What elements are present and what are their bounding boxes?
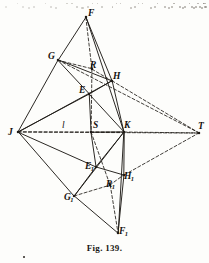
solid-edge-e1-h1 [96, 167, 124, 175]
vertex-label-subscript: 1 [91, 165, 94, 172]
vertex-marker-e1 [95, 166, 98, 169]
vertex-marker-t [198, 132, 201, 135]
geometry-diagram [0, 0, 209, 263]
vertex-label-text: G [48, 51, 55, 61]
vertex-label-e: E [79, 86, 85, 96]
vertex-label-text: J [8, 127, 13, 137]
vertex-label-text: S [93, 120, 98, 130]
vertex-label-subscript: 1 [131, 175, 134, 182]
vertex-marker-k [123, 131, 126, 134]
figure-caption: Fig. 139. [0, 243, 209, 253]
figure-container: FGRHEJSKTE1H1R1G1F1 l Fig. 139. [0, 0, 209, 263]
vertex-label-h1: H1 [124, 172, 134, 182]
vertex-label-s: S [93, 121, 98, 131]
vertex-label-text: H [113, 71, 120, 81]
vertex-label-h: H [113, 72, 120, 82]
vertex-label-g1: G1 [64, 193, 74, 203]
vertex-label-text: T [198, 121, 204, 131]
vertex-label-e1: E1 [85, 162, 94, 172]
dashed-edge-g1-r1 [74, 185, 110, 196]
vertex-label-r: R [90, 61, 96, 71]
vertex-label-subscript: 1 [112, 183, 115, 190]
vertex-label-f1: F1 [119, 227, 128, 237]
dashed-edge-h1-t [124, 133, 199, 175]
vertex-marker-g [57, 59, 60, 62]
vertex-label-t: T [198, 122, 204, 132]
vertex-marker-f [85, 16, 88, 19]
vertex-label-g: G [48, 52, 55, 62]
vertex-label-subscript: 1 [70, 196, 73, 203]
vertex-label-text: E [79, 85, 85, 95]
solid-edge-h-k [112, 81, 124, 132]
line-label-l: l [62, 121, 64, 131]
vertex-label-r1: R1 [106, 180, 115, 190]
vertex-marker-layer [17, 16, 201, 235]
dashed-edge-layer [18, 17, 199, 233]
vertex-label-text: R [90, 60, 96, 70]
vertex-marker-s [90, 131, 93, 134]
vertex-label-k: K [124, 121, 130, 131]
vertex-marker-e [88, 93, 91, 96]
vertex-label-text: K [124, 120, 130, 130]
vertex-label-text: F [88, 8, 94, 18]
solid-edge-g1-f1 [74, 196, 118, 233]
solid-edge-e-s [89, 94, 91, 132]
vertex-label-f: F [88, 9, 94, 19]
page-speck [23, 256, 25, 258]
solid-edge-f-g [58, 17, 86, 60]
dashed-edge-r1-f1 [110, 185, 118, 233]
vertex-label-j: J [8, 128, 13, 138]
solid-edge-j-g1 [18, 132, 74, 196]
dashed-edge-r-s [91, 69, 92, 132]
vertex-label-subscript: 1 [125, 230, 128, 237]
dashed-edge-s-r1 [91, 132, 110, 185]
vertex-marker-j [17, 131, 20, 134]
